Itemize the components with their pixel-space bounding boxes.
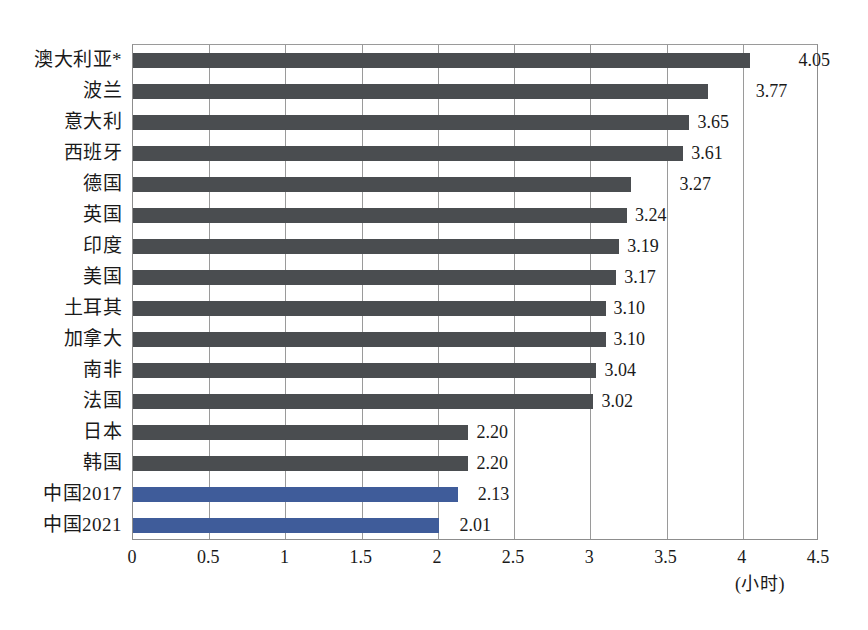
bar-row: 3.19	[133, 231, 817, 262]
bar-row: 3.10	[133, 293, 817, 324]
category-label: 韩国	[83, 453, 122, 472]
bar-row: 2.20	[133, 448, 817, 479]
bar-value-label: 3.27	[679, 174, 711, 194]
bar-value-label: 2.20	[476, 453, 508, 473]
bar-row: 2.01	[133, 510, 817, 541]
category-label-row: 韩国	[0, 447, 128, 478]
value-tick-label: 0.5	[197, 546, 220, 568]
category-label: 波兰	[83, 81, 122, 100]
category-label-row: 日本	[0, 416, 128, 447]
value-tick-label: 2	[432, 546, 441, 568]
bar-value-label: 3.10	[614, 329, 646, 349]
category-label: 澳大利亚*	[34, 50, 122, 69]
bar-value-label: 3.19	[627, 236, 659, 256]
bar-value-label: 3.04	[604, 360, 636, 380]
category-label-row: 中国2017	[0, 478, 128, 509]
bar	[133, 115, 689, 130]
plot-area: 4.053.773.653.613.273.243.193.173.103.10…	[132, 44, 818, 540]
bar	[133, 146, 683, 161]
bar-row: 4.05	[133, 45, 817, 76]
horizontal-bar-chart: 澳大利亚*波兰意大利西班牙德国英国印度美国土耳其加拿大南非法国日本韩国中国201…	[0, 0, 868, 630]
value-tick-label: 4	[737, 546, 746, 568]
bar-row: 3.24	[133, 200, 817, 231]
bar-value-label: 3.77	[756, 81, 788, 101]
category-label: 西班牙	[64, 143, 123, 162]
category-label: 土耳其	[64, 298, 123, 317]
axis-unit-label: (小时)	[735, 573, 785, 595]
bar-row: 3.61	[133, 138, 817, 169]
value-tick-label: 3	[585, 546, 594, 568]
category-label-row: 澳大利亚*	[0, 44, 128, 75]
bar	[133, 270, 616, 285]
category-label-row: 英国	[0, 199, 128, 230]
category-label: 加拿大	[64, 329, 123, 348]
bar	[133, 239, 619, 254]
category-label: 意大利	[64, 112, 123, 131]
category-label-row: 德国	[0, 168, 128, 199]
bar-value-label: 2.01	[459, 515, 491, 535]
bar-value-label: 3.17	[624, 267, 656, 287]
bar-value-label: 3.24	[635, 205, 667, 225]
bar-row: 3.77	[133, 76, 817, 107]
category-label: 英国	[83, 205, 122, 224]
bar	[133, 425, 468, 440]
category-label-row: 中国2021	[0, 509, 128, 540]
category-label-row: 加拿大	[0, 323, 128, 354]
value-tick-label: 3.5	[654, 546, 677, 568]
category-label: 美国	[83, 267, 122, 286]
value-axis-labels: 00.511.522.533.544.5	[0, 546, 868, 576]
value-tick-label: 0	[128, 546, 137, 568]
bar-value-label: 2.20	[476, 422, 508, 442]
bar-row: 3.04	[133, 355, 817, 386]
category-label: 中国2017	[43, 484, 122, 503]
category-label-row: 法国	[0, 385, 128, 416]
bar-row: 3.27	[133, 169, 817, 200]
category-label: 法国	[83, 391, 122, 410]
value-tick-label: 4.5	[807, 546, 830, 568]
bar	[133, 363, 596, 378]
bar	[133, 332, 606, 347]
category-label: 南非	[83, 360, 122, 379]
bar	[133, 518, 439, 533]
bar-row: 3.65	[133, 107, 817, 138]
category-label-row: 意大利	[0, 106, 128, 137]
bar	[133, 456, 468, 471]
value-tick-label: 1	[280, 546, 289, 568]
bar	[133, 84, 708, 99]
bar-row: 2.20	[133, 417, 817, 448]
value-tick-label: 1.5	[349, 546, 372, 568]
category-label: 日本	[83, 422, 122, 441]
category-label: 中国2021	[43, 515, 122, 534]
bar-row: 2.13	[133, 479, 817, 510]
category-label: 印度	[83, 236, 122, 255]
bar	[133, 394, 593, 409]
value-tick-label: 2.5	[502, 546, 525, 568]
category-label-row: 南非	[0, 354, 128, 385]
bar	[133, 53, 750, 68]
bar-value-label: 3.61	[691, 143, 723, 163]
category-label-row: 波兰	[0, 75, 128, 106]
bar-row: 3.10	[133, 324, 817, 355]
category-label-row: 美国	[0, 261, 128, 292]
bar-row: 3.02	[133, 386, 817, 417]
category-axis-labels: 澳大利亚*波兰意大利西班牙德国英国印度美国土耳其加拿大南非法国日本韩国中国201…	[0, 44, 128, 540]
bar-value-label: 3.02	[601, 391, 633, 411]
category-label-row: 西班牙	[0, 137, 128, 168]
bar	[133, 208, 627, 223]
bar-value-label: 3.65	[697, 112, 729, 132]
category-label-row: 印度	[0, 230, 128, 261]
bar-value-label: 4.05	[798, 50, 830, 70]
bar-row: 3.17	[133, 262, 817, 293]
bar	[133, 487, 458, 502]
bar	[133, 177, 631, 192]
figure-caption	[170, 622, 710, 630]
bar-value-label: 3.10	[614, 298, 646, 318]
bar	[133, 301, 606, 316]
bar-value-label: 2.13	[478, 484, 510, 504]
category-label-row: 土耳其	[0, 292, 128, 323]
category-label: 德国	[83, 174, 122, 193]
